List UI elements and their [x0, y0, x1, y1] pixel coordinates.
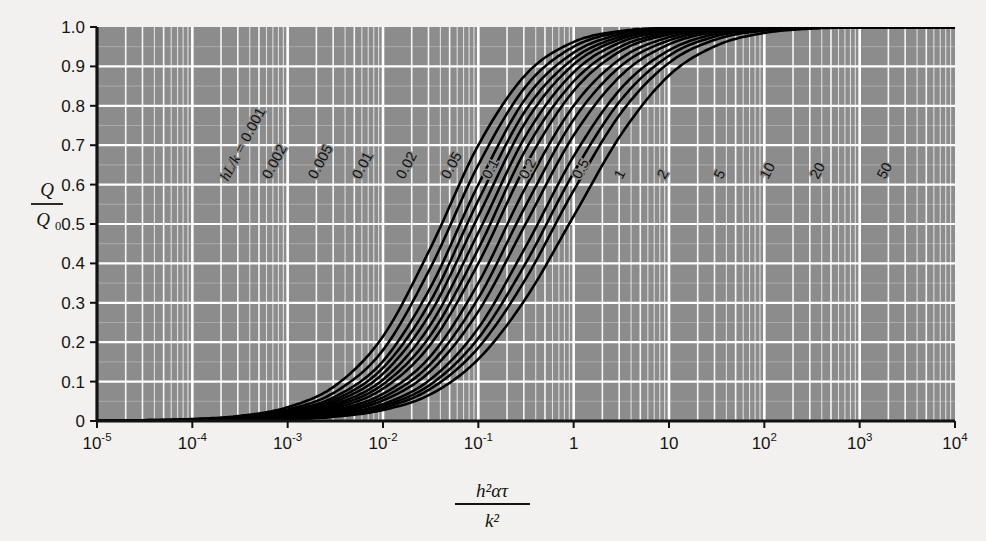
y-tick-label: 0.7 [61, 136, 85, 155]
y-tick-label: 1.0 [61, 18, 85, 37]
y-tick-label: 0.6 [61, 176, 85, 195]
x-tick-base: 10 [273, 434, 292, 453]
x-tick-base: 10 [942, 434, 961, 453]
x-tick-base: 1 [569, 434, 578, 453]
y-axis-denominator: Q [36, 209, 50, 230]
y-tick-label: 0.8 [61, 97, 85, 116]
x-axis-denominator: k² [485, 510, 499, 531]
x-tick-base: 10 [847, 434, 866, 453]
groeber-chart-svg: hL/k = 0.0010.0020.0050.010.020.050.10.2… [0, 0, 986, 541]
x-tick-exponent: 4 [961, 431, 968, 443]
x-tick-exponent: 2 [771, 431, 777, 443]
y-tick-label: 0 [76, 412, 85, 431]
y-axis-denominator-subscript: 0 [55, 219, 61, 233]
x-tick-base: 10 [660, 434, 679, 453]
x-tick-base: 10 [752, 434, 771, 453]
y-tick-label: 0.4 [61, 254, 85, 273]
y-axis-numerator: Q [40, 179, 54, 200]
x-tick-label: 10 [660, 434, 679, 453]
x-tick-exponent: -4 [197, 431, 208, 443]
x-tick-label: 1 [569, 434, 578, 453]
y-tick-label: 0.5 [61, 215, 85, 234]
x-tick-base: 10 [82, 434, 101, 453]
x-tick-exponent: -3 [292, 431, 302, 443]
chart-figure: hL/k = 0.0010.0020.0050.010.020.050.10.2… [0, 0, 986, 541]
x-axis-numerator: h²ατ [476, 480, 509, 501]
y-tick-label: 0.3 [61, 294, 85, 313]
x-tick-exponent: -2 [387, 431, 397, 443]
x-tick-base: 10 [464, 434, 483, 453]
x-tick-exponent: 3 [866, 431, 872, 443]
x-tick-base: 10 [178, 434, 197, 453]
y-tick-label: 0.1 [61, 373, 85, 392]
y-tick-label: 0.2 [61, 333, 85, 352]
x-tick-exponent: -5 [101, 431, 111, 443]
y-tick-label: 0.9 [61, 57, 85, 76]
x-tick-base: 10 [368, 434, 387, 453]
x-tick-exponent: -1 [483, 431, 493, 443]
